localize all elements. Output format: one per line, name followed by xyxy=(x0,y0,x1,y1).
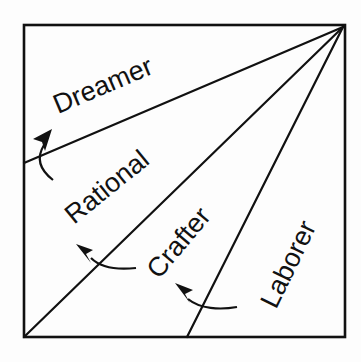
label-laborer: Laborer xyxy=(254,216,322,313)
arrow-curve xyxy=(40,145,53,180)
label-dreamer: Dreamer xyxy=(49,51,157,120)
arrow-laborer-to-crafter xyxy=(175,283,237,308)
wedge-diagram: Dreamer Rational Crafter Laborer xyxy=(0,0,361,362)
label-rational: Rational xyxy=(59,144,155,230)
arrow-curve xyxy=(91,258,136,269)
arrow-curve xyxy=(188,299,237,308)
arrowhead-icon xyxy=(76,244,93,263)
